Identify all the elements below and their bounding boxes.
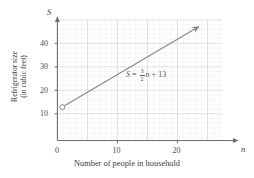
equation-annotation: S = 3 2 n + 13 — [126, 68, 166, 82]
y-tick-label-30: 30 — [40, 63, 48, 71]
equation-intercept: 13 — [158, 71, 166, 79]
y-axis-title-line-2: (in cubic feet) — [19, 51, 28, 102]
y-axis-title: Refrigerator size (in cubic feet) — [2, 18, 36, 134]
chart-plot-area — [0, 0, 254, 178]
x-axis-title: Number of people in household — [0, 160, 254, 168]
x-tick-label-20: 20 — [173, 147, 181, 155]
y-axis-title-line-1: Refrigerator size — [10, 51, 19, 102]
y-tick-label-20: 20 — [40, 87, 48, 95]
equation-lhs: S — [126, 71, 130, 79]
equation-plus: + — [152, 71, 157, 79]
y-tick-label-40: 40 — [40, 40, 48, 48]
equation-denominator: 2 — [140, 75, 145, 83]
x-tick-label-10: 10 — [113, 147, 121, 155]
x-tick-label-0: 0 — [55, 147, 59, 155]
x-axis-variable-label: n — [241, 145, 245, 154]
chart-figure: S n 10 20 30 40 0 10 20 S = 3 2 n + 13 R… — [0, 0, 254, 178]
equation-variable: n — [146, 71, 150, 79]
y-axis-variable-label: S — [47, 8, 51, 17]
y-tick-label-10: 10 — [40, 110, 48, 118]
equation-fraction: 3 2 — [140, 68, 145, 82]
equation-equals: = — [132, 71, 137, 79]
equation-numerator: 3 — [140, 68, 145, 75]
open-circle-endpoint-marker — [60, 105, 65, 110]
